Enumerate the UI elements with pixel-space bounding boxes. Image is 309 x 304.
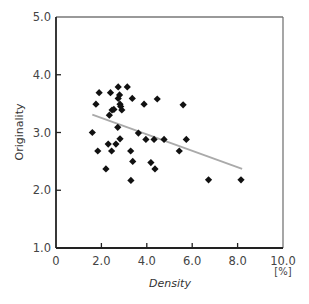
diamond-marker bbox=[154, 95, 161, 102]
diamond-marker bbox=[108, 147, 115, 154]
x-tick-label: 6.0 bbox=[183, 254, 201, 268]
x-tick-label: 8.0 bbox=[228, 254, 246, 268]
scatter-chart: 1.02.03.04.05.0 02.04.06.08.010.0 Origin… bbox=[0, 0, 309, 304]
diamond-marker bbox=[92, 101, 99, 108]
diamond-marker bbox=[124, 83, 131, 90]
diamond-marker bbox=[89, 129, 96, 136]
x-tick-label: 4.0 bbox=[138, 254, 156, 268]
y-axis-title: Originality bbox=[13, 103, 26, 160]
y-tick-label: 5.0 bbox=[33, 10, 51, 24]
diamond-marker bbox=[115, 83, 122, 90]
y-tick-label: 1.0 bbox=[33, 241, 51, 255]
y-tick-label: 3.0 bbox=[33, 126, 51, 140]
x-tick-label: 0 bbox=[52, 254, 59, 268]
diamond-marker bbox=[107, 89, 114, 96]
diamond-marker bbox=[142, 136, 149, 143]
diamond-marker bbox=[237, 176, 244, 183]
diamond-marker bbox=[147, 159, 154, 166]
y-tick-label: 4.0 bbox=[33, 68, 51, 82]
diamond-marker bbox=[151, 165, 158, 172]
diamond-marker bbox=[205, 176, 212, 183]
diamond-marker bbox=[112, 140, 119, 147]
diamond-marker bbox=[129, 158, 136, 165]
x-tick-label: 2.0 bbox=[92, 254, 110, 268]
x-axis-title: Density bbox=[149, 277, 191, 290]
diamond-marker bbox=[140, 101, 147, 108]
diamond-marker bbox=[127, 147, 134, 154]
y-tick-label: 2.0 bbox=[33, 183, 51, 197]
diamond-marker bbox=[96, 89, 103, 96]
x-axis-unit: [%] bbox=[274, 266, 291, 277]
diamond-marker bbox=[105, 140, 112, 147]
x-axis-ticks: 02.04.06.08.010.0 bbox=[52, 243, 295, 268]
diamond-marker bbox=[183, 136, 190, 143]
diamond-marker bbox=[176, 147, 183, 154]
diamond-marker bbox=[180, 101, 187, 108]
diamond-marker bbox=[116, 135, 123, 142]
diamond-marker bbox=[127, 177, 134, 184]
data-points bbox=[89, 83, 245, 184]
diamond-marker bbox=[94, 147, 101, 154]
diamond-marker bbox=[129, 95, 136, 102]
diamond-marker bbox=[102, 165, 109, 172]
